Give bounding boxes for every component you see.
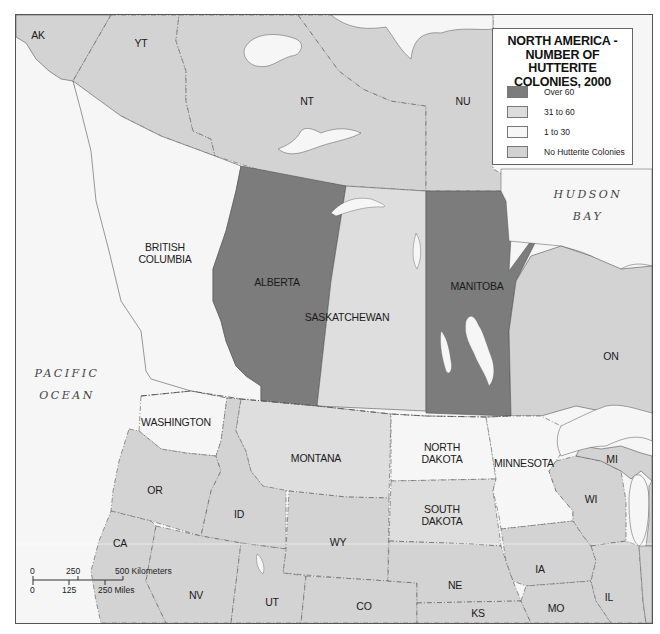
label-ia: IA	[535, 563, 545, 575]
scale-mi-125: 125	[62, 585, 76, 595]
legend-swatch-1-to-30	[507, 126, 528, 138]
legend-swatch-none	[507, 146, 528, 158]
label-il: IL	[605, 591, 613, 603]
label-sd-line2: DAKOTA	[421, 515, 462, 527]
label-or: OR	[147, 484, 162, 496]
label-yt: YT	[134, 37, 147, 49]
legend-title: NORTH AMERICA - NUMBER OF HUTTERITE COLO…	[493, 35, 632, 89]
label-montana: MONTANA	[291, 452, 341, 464]
label-bc-line1: BRITISH	[138, 241, 191, 253]
legend-title-line2: NUMBER OF HUTTERITE	[493, 49, 632, 76]
scale-mi-250: 250 Miles	[98, 585, 134, 595]
label-manitoba: MANITOBA	[450, 280, 503, 292]
scale-km-500: 500 Kilometers	[115, 566, 172, 576]
label-south-dakota: SOUTH DAKOTA	[421, 503, 462, 527]
legend-title-line1: NORTH AMERICA -	[493, 35, 632, 49]
region-on	[509, 246, 652, 431]
label-hudson-bay: HUDSON BAY	[554, 184, 623, 228]
label-bc: BRITISH COLUMBIA	[138, 241, 191, 265]
label-on: ON	[603, 350, 618, 362]
legend-label-1-to-30: 1 to 30	[544, 127, 570, 137]
label-alberta: ALBERTA	[254, 276, 299, 288]
label-bc-line2: COLUMBIA	[138, 253, 191, 265]
label-nv: NV	[189, 589, 203, 601]
label-ut: UT	[265, 596, 279, 608]
label-sd-line1: SOUTH	[421, 503, 462, 515]
label-north-dakota: NORTH DAKOTA	[421, 441, 462, 465]
legend-swatch-over-60	[507, 86, 528, 98]
legend-swatch-31-to-60	[507, 106, 528, 118]
label-nt: NT	[300, 95, 314, 107]
label-wi: WI	[585, 493, 597, 505]
label-ca: CA	[113, 537, 127, 549]
label-wy: WY	[330, 536, 347, 548]
label-ak: AK	[31, 29, 45, 41]
label-ne: NE	[448, 579, 462, 591]
label-co: CO	[356, 600, 371, 612]
scale-bar: 0 250 500 Kilometers 0 125 250 Miles	[30, 566, 180, 596]
scale-mi-0: 0	[30, 585, 35, 595]
legend-item-none: No Hutterite Colonies	[507, 145, 625, 159]
scale-km-250: 250	[66, 566, 80, 576]
legend: NORTH AMERICA - NUMBER OF HUTTERITE COLO…	[492, 28, 633, 165]
label-mi: MI	[606, 453, 617, 465]
legend-label-none: No Hutterite Colonies	[544, 147, 625, 157]
label-pacific-ocean: PACIFIC OCEAN	[35, 363, 100, 407]
scale-km-0: 0	[30, 566, 35, 576]
label-washington: WASHINGTON	[141, 416, 211, 428]
label-nd-line2: DAKOTA	[421, 453, 462, 465]
label-minnesota: MINNESOTA	[494, 457, 554, 469]
label-nu: NU	[456, 95, 471, 107]
legend-item-1-to-30: 1 to 30	[507, 125, 570, 139]
legend-label-31-to-60: 31 to 60	[544, 107, 575, 117]
legend-label-over-60: Over 60	[544, 87, 574, 97]
label-id: ID	[234, 508, 244, 520]
label-nd-line1: NORTH	[421, 441, 462, 453]
label-ks: KS	[471, 607, 485, 619]
label-mo: MO	[548, 602, 565, 614]
legend-item-over-60: Over 60	[507, 85, 574, 99]
legend-item-31-to-60: 31 to 60	[507, 105, 575, 119]
label-saskatchewan: SASKATCHEWAN	[305, 311, 390, 323]
